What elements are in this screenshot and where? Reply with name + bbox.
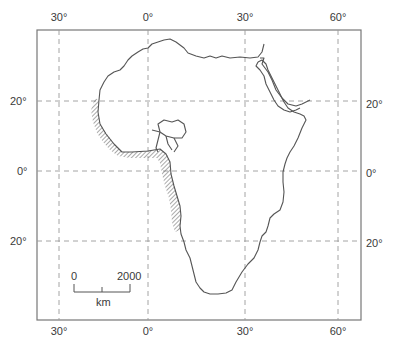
scale-end-label: 2000: [117, 270, 141, 282]
lake-chad-region: [158, 120, 186, 138]
lat-label-right-0: 0°: [366, 167, 377, 179]
coastline: [98, 39, 310, 294]
lat-label-right-20n: 20°: [366, 98, 383, 110]
lon-label-top-0: 0°: [143, 11, 154, 23]
africa-map: [0, 0, 396, 350]
lon-label-bottom-60e: 60°: [330, 325, 347, 337]
lat-label-right-20s: 20°: [366, 237, 383, 249]
graticule: [37, 30, 361, 320]
hatched-coast-band: [91, 98, 181, 232]
lat-label-left-20s: 20°: [10, 235, 27, 247]
map-frame: [37, 30, 361, 320]
africa-coast: [98, 39, 306, 294]
arabia-coast: [260, 58, 310, 106]
inner-tick: [152, 130, 160, 132]
lon-label-bottom-30w: 30°: [51, 325, 68, 337]
lon-label-bottom-30e: 30°: [237, 325, 254, 337]
lon-label-top-60e: 60°: [330, 11, 347, 23]
inner-boundary-3: [174, 138, 178, 152]
lat-label-left-20n: 20°: [10, 95, 27, 107]
lon-label-top-30w: 30°: [51, 11, 68, 23]
scale-bar: [70, 282, 140, 296]
lon-label-top-30e: 30°: [237, 11, 254, 23]
lon-label-bottom-0: 0°: [143, 325, 154, 337]
inner-boundary-2: [166, 136, 172, 150]
red-sea-west: [256, 62, 300, 112]
lat-label-left-0: 0°: [17, 165, 28, 177]
scale-start-label: 0: [71, 270, 77, 282]
scale-unit-label: km: [96, 296, 111, 308]
